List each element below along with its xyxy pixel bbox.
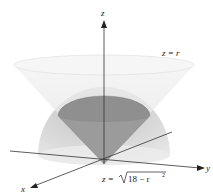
- svg-text:2: 2: [162, 172, 165, 178]
- svg-text:18 − r: 18 − r: [128, 174, 150, 184]
- z-arrow-icon: [101, 20, 107, 28]
- y-arrow-icon: [197, 165, 205, 171]
- x-arrow-icon: [30, 183, 38, 188]
- cone-sphere-diagram: z y x z = r z = 18 − r 2: [0, 0, 213, 196]
- cone-equation-label: z = r: [161, 48, 180, 58]
- figure: z y x z = r z = 18 − r 2: [0, 0, 213, 196]
- z-axis-label: z: [100, 8, 105, 18]
- x-axis-label: x: [20, 184, 25, 194]
- svg-text:z =: z =: [101, 174, 114, 184]
- hemisphere-equation-label: z = 18 − r 2: [101, 172, 166, 184]
- y-axis-label: y: [205, 163, 210, 173]
